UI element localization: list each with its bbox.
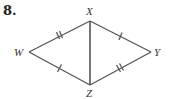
vertex-label-z: Z xyxy=(86,87,93,99)
vertex-label-w: W xyxy=(14,46,24,58)
vertex-label-y: Y xyxy=(154,46,162,58)
segment-wx xyxy=(29,21,90,52)
segment-zy xyxy=(90,52,151,85)
vertex-label-x: X xyxy=(85,5,94,17)
quadrilateral-diagram: X W Y Z xyxy=(0,0,173,99)
